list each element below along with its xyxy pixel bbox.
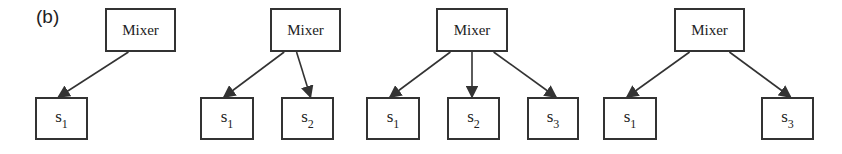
- source-box-s3: s3: [761, 97, 814, 140]
- arrow: [390, 52, 450, 97]
- source-label: s1: [55, 107, 68, 130]
- source-label: s3: [781, 107, 794, 130]
- source-label: s3: [547, 107, 560, 130]
- arrow: [494, 52, 556, 97]
- arrow: [224, 52, 284, 97]
- arrow: [59, 52, 129, 97]
- source-label: s1: [221, 107, 234, 130]
- source-subscript: 2: [474, 117, 480, 131]
- source-subscript: 2: [308, 117, 314, 131]
- source-label: s1: [387, 107, 400, 130]
- source-box-s1: s1: [603, 97, 657, 140]
- arrow: [729, 52, 790, 97]
- arrow: [627, 52, 690, 97]
- mixer-box: Mixer: [674, 8, 745, 52]
- source-box-s1: s1: [200, 97, 254, 140]
- source-label: s1: [624, 107, 637, 130]
- source-subscript: 3: [553, 117, 559, 131]
- source-box-s2: s2: [281, 97, 334, 140]
- source-box-s2: s2: [447, 97, 500, 140]
- arrow: [297, 52, 311, 97]
- source-label: s2: [467, 107, 480, 130]
- mixer-box: Mixer: [270, 8, 341, 52]
- source-box-s1: s1: [35, 97, 88, 140]
- source-box-s1: s1: [366, 97, 420, 140]
- mixer-box: Mixer: [436, 8, 508, 52]
- source-subscript: 1: [62, 117, 68, 131]
- source-subscript: 1: [227, 117, 233, 131]
- source-subscript: 3: [788, 117, 794, 131]
- source-label: s2: [301, 107, 314, 130]
- source-subscript: 1: [393, 117, 399, 131]
- mixer-box: Mixer: [105, 8, 176, 52]
- source-subscript: 1: [630, 117, 636, 131]
- source-box-s3: s3: [527, 97, 579, 140]
